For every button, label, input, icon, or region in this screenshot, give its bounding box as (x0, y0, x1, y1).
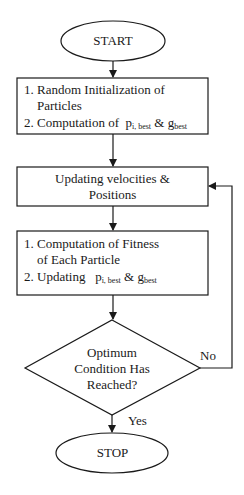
p-best-symbol: pi, best (125, 115, 151, 130)
update-line-1: Updating velocities & (17, 171, 208, 186)
init-item-1-cont: Particles (24, 98, 82, 113)
edge-label-no: No (200, 348, 216, 363)
g-best-symbol: gbest (137, 269, 156, 284)
fitness-item-1-num: 1. (24, 236, 34, 251)
fitness-item-1-text: Computation of Fitness (37, 236, 159, 251)
g-best-symbol: gbest (168, 115, 187, 130)
fitness-item-1: 1. Computation of Fitness (24, 236, 159, 251)
fitness-item-2: 2. Updating pi, best & gbest (24, 269, 157, 288)
ampersand: & (124, 269, 134, 284)
init-item-1-text-cont: Particles (37, 98, 82, 113)
init-item-1-text: Random Initialization of (37, 82, 165, 97)
edge-label-yes: Yes (128, 413, 147, 428)
decision-line-3: Reached? (52, 377, 172, 392)
init-item-1-num: 1. (24, 82, 34, 97)
init-item-2-num: 2. (24, 115, 34, 130)
p-best-symbol: pi, best (95, 269, 121, 284)
ampersand: & (154, 115, 164, 130)
update-line-2: Positions (17, 187, 208, 202)
fitness-item-2-prefix: Updating (37, 269, 85, 284)
decision-line-1: Optimum (52, 345, 172, 360)
init-item-2: 2. Computation of pi, best & gbest (24, 115, 187, 134)
fitness-item-1-text-cont: of Each Particle (37, 252, 120, 267)
stop-label: STOP (56, 445, 169, 460)
decision-line-2: Condition Has (52, 361, 172, 376)
init-item-2-prefix: Computation of (37, 115, 119, 130)
fitness-item-1-cont: of Each Particle (24, 252, 120, 267)
start-label: START (61, 33, 165, 48)
init-item-1: 1. Random Initialization of (24, 82, 165, 97)
fitness-item-2-num: 2. (24, 269, 34, 284)
